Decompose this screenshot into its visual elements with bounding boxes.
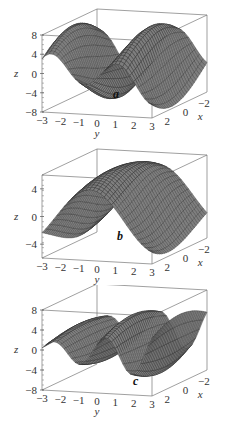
z-tick-label: 8 (32, 29, 38, 41)
y-axis-label: y (94, 127, 100, 139)
z-axis-label: z (13, 210, 19, 222)
surface-mesh (42, 311, 207, 377)
y-tick-label: −1 (73, 262, 85, 274)
panel-a: 840−4−8z−3−2−10123y20−2xa (0, 0, 229, 145)
y-tick-label: 3 (149, 398, 155, 410)
z-tick-label: −4 (25, 364, 37, 376)
x-tick-label: 0 (183, 384, 189, 396)
z-tick-label: 4 (32, 48, 38, 60)
z-tick-label: −4 (25, 87, 37, 99)
plot-area: 840−4−8z−3−2−10123y20−2xc (13, 285, 210, 417)
z-axis: 840−4−8z (13, 29, 44, 118)
y-tick-label: −2 (54, 261, 66, 273)
z-axis-label: z (13, 343, 19, 355)
y-axis-label: y (94, 405, 100, 417)
x-tick-label: 2 (164, 261, 170, 273)
z-tick-label: 0 (32, 344, 38, 356)
plot-area: 40−4z−3−2−10123y20−2xb (13, 149, 210, 285)
panel-label: b (117, 229, 123, 243)
z-tick-label: 4 (32, 324, 38, 336)
z-tick-label: 4 (32, 183, 38, 195)
y-tick-label: 1 (113, 118, 119, 130)
y-tick-label: 2 (131, 119, 137, 131)
surface-plot-a: 840−4−8z−3−2−10123y20−2xa (0, 0, 229, 145)
y-tick-label: −3 (36, 114, 48, 126)
z-tick-label: 0 (32, 68, 38, 80)
panel-b: 40−4z−3−2−10123y20−2xb (0, 145, 229, 285)
z-tick-label: 0 (32, 211, 38, 223)
x-axis-label: x (197, 256, 203, 268)
y-tick-label: −1 (73, 116, 85, 128)
y-tick-label: −2 (54, 393, 66, 405)
y-tick-label: 2 (131, 265, 137, 277)
y-tick-label: 3 (149, 266, 155, 278)
y-tick-label: −3 (36, 260, 48, 272)
x-axis-label: x (197, 388, 203, 400)
y-tick-label: 3 (149, 120, 155, 132)
plot-area: 840−4−8z−3−2−10123y20−2xa (13, 9, 210, 139)
surface-plot-c: 840−4−8z−3−2−10123y20−2xc (0, 285, 229, 436)
y-axis: −3−2−10123y (36, 114, 155, 139)
y-tick-label: 1 (113, 264, 119, 276)
x-tick-label: 2 (164, 115, 170, 127)
x-tick-label: −2 (198, 375, 210, 387)
x-tick-label: −2 (198, 243, 210, 255)
z-axis: 40−4z (13, 175, 44, 258)
y-tick-label: −3 (36, 392, 48, 404)
surface-plot-b: 40−4z−3−2−10123y20−2xb (0, 145, 229, 285)
y-axis-label: y (94, 273, 100, 285)
surface-mesh (42, 162, 207, 254)
x-tick-label: 2 (164, 393, 170, 405)
z-axis: 840−4−8z (13, 304, 44, 396)
panel-c: 840−4−8z−3−2−10123y20−2xc (0, 285, 229, 436)
x-tick-label: 0 (183, 106, 189, 118)
x-tick-label: 0 (183, 252, 189, 264)
z-tick-label: 8 (32, 304, 38, 316)
y-tick-label: −1 (73, 394, 85, 406)
y-tick-label: 1 (113, 396, 119, 408)
panel-label: a (113, 87, 119, 101)
y-tick-label: −2 (54, 115, 66, 127)
x-axis-label: x (197, 110, 203, 122)
surface-mesh (42, 23, 207, 108)
x-tick-label: −2 (198, 97, 210, 109)
y-axis: −3−2−10123y (36, 392, 155, 417)
z-tick-label: −4 (25, 238, 37, 250)
y-axis: −3−2−10123y (36, 260, 155, 285)
panel-label: c (133, 374, 139, 388)
y-tick-label: 2 (131, 397, 137, 409)
z-axis-label: z (13, 67, 19, 79)
